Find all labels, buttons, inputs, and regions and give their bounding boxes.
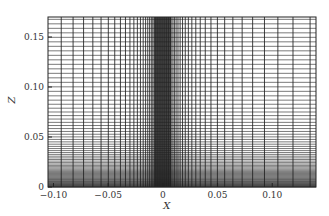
plot-frame xyxy=(48,17,316,187)
mesh-vertical-lines xyxy=(61,17,310,187)
x-axis-label: X xyxy=(162,200,171,211)
mesh-horizontal-lines xyxy=(48,19,316,187)
y-tick-label: 0.10 xyxy=(24,82,44,92)
x-tick-label: 0.05 xyxy=(208,190,228,200)
mesh-chart: −0.10−0.0500.050.10 00.050.100.15 X Z xyxy=(0,0,329,216)
y-tick-label: 0.05 xyxy=(24,132,44,142)
y-tick-label: 0.15 xyxy=(24,32,44,42)
x-tick-label: 0 xyxy=(160,190,166,200)
x-tick-label: −0.05 xyxy=(94,190,122,200)
x-tick-label: 0.10 xyxy=(262,190,282,200)
y-axis-label: Z xyxy=(6,95,17,104)
y-tick-label: 0 xyxy=(38,182,44,192)
